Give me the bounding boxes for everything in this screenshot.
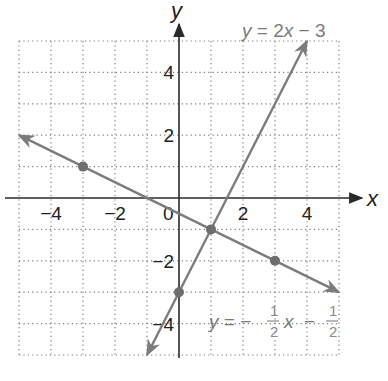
plotted-point [270,256,280,266]
y-axis-label: y [169,0,184,23]
y-tick-label: 4 [163,62,174,83]
y-tick-label: 2 [163,125,174,146]
svg-text:1: 1 [329,302,337,319]
svg-text:y = −: y = − [207,311,251,332]
plotted-point [174,287,184,297]
equation-label-line2: y = − 1 2 x − 1 2 [207,302,338,340]
coordinate-plane: x y −4−2024 42−2−4 y = 2x − 3 y = − 1 2 … [0,0,388,381]
x-tick-label: −2 [104,203,126,224]
x-tick-label: 2 [238,203,249,224]
x-tick-label: 4 [302,203,313,224]
plotted-point [206,224,216,234]
svg-text:x: x [283,311,295,332]
x-tick-label: −4 [40,203,62,224]
svg-text:−: − [304,311,315,332]
plotted-point [78,162,88,172]
svg-text:2: 2 [270,323,278,340]
equation-label-line1: y = 2x − 3 [240,20,325,41]
x-axis-label: x [366,186,379,211]
svg-text:2: 2 [329,323,337,340]
svg-text:1: 1 [270,302,278,319]
y-tick-label: −2 [152,251,174,272]
